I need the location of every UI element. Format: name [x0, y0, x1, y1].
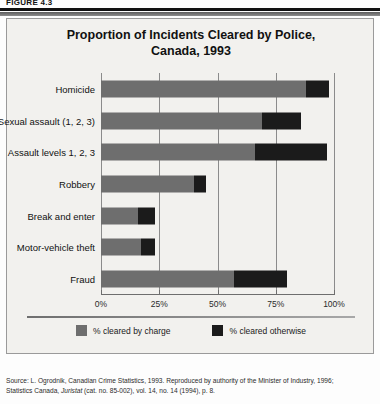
source-line-2-post: (cat. no. 85-002), vol. 14, no. 14 (1994… — [82, 387, 215, 394]
bar-segment — [101, 207, 138, 224]
bar-rows: HomicideSexual assault (1, 2, 3)Assault … — [101, 73, 334, 295]
tick-label: 50% — [209, 299, 226, 309]
source-line-2: Statistics Canada, Juristat (cat. no. 85… — [6, 386, 374, 396]
chart-title: Proportion of Incidents Cleared by Polic… — [7, 27, 375, 59]
source-publication-title: Juristat — [61, 387, 82, 394]
figure-container: FIGURE 4.3 Proportion of Incidents Clear… — [0, 0, 380, 404]
stacked-bar — [101, 207, 155, 224]
tick-mark — [159, 290, 160, 295]
category-label: Motor-vehicle theft — [17, 242, 95, 253]
source-note: Source: L. Ogrodnik, Canadian Crime Stat… — [6, 376, 374, 395]
bar-segment — [262, 112, 302, 129]
legend-label: % cleared by charge — [93, 326, 171, 336]
stacked-bar — [101, 80, 329, 97]
bar-row: Robbery — [101, 168, 334, 200]
bar-segment — [194, 175, 206, 192]
tick-mark — [101, 290, 102, 295]
tick-mark — [218, 290, 219, 295]
stacked-bar — [101, 112, 301, 129]
category-label: Break and enter — [27, 210, 95, 221]
bar-segment — [138, 207, 154, 224]
plot-area: HomicideSexual assault (1, 2, 3)Assault … — [101, 73, 334, 295]
gridline-100pct — [334, 73, 335, 295]
category-label: Fraud — [70, 274, 95, 285]
stacked-bar — [101, 271, 287, 288]
bar-segment — [234, 271, 288, 288]
chart-title-line2: Canada, 1993 — [7, 43, 375, 59]
bar-row: Homicide — [101, 73, 334, 105]
category-label: Robbery — [59, 178, 95, 189]
category-label: Assault levels 1, 2, 3 — [8, 147, 95, 158]
bar-segment — [306, 80, 329, 97]
bar-row: Sexual assault (1, 2, 3) — [101, 105, 334, 137]
tick-label: 0% — [95, 299, 107, 309]
tick-label: 75% — [267, 299, 284, 309]
tick-label: 25% — [151, 299, 168, 309]
category-label: Homicide — [55, 83, 95, 94]
category-label: Sexual assault (1, 2, 3) — [0, 115, 95, 126]
stacked-bar — [101, 175, 206, 192]
figure-label: FIGURE 4.3 — [6, 0, 53, 7]
chart-panel: Proportion of Incidents Cleared by Polic… — [6, 18, 374, 354]
legend-swatch-charge — [76, 325, 87, 336]
bar-segment — [101, 80, 306, 97]
chart-legend: % cleared by charge% cleared otherwise — [7, 325, 375, 336]
header-rule-dark — [0, 8, 380, 11]
chart-title-line1: Proportion of Incidents Cleared by Polic… — [67, 28, 316, 42]
source-line-1: Source: L. Ogrodnik, Canadian Crime Stat… — [6, 376, 374, 386]
header-rule-gray — [0, 12, 380, 16]
bar-segment — [141, 239, 155, 256]
bar-segment — [255, 144, 327, 161]
stacked-bar — [101, 144, 327, 161]
x-axis-ticks: 0%25%50%75%100% — [101, 295, 334, 313]
source-line-2-pre: Statistics Canada, — [6, 387, 61, 394]
tick-mark — [334, 290, 335, 295]
bar-segment — [101, 271, 234, 288]
bar-segment — [101, 112, 262, 129]
legend-item-other: % cleared otherwise — [212, 325, 306, 336]
legend-item-charge: % cleared by charge — [76, 325, 171, 336]
stacked-bar — [101, 239, 155, 256]
legend-swatch-other — [212, 325, 223, 336]
tick-mark — [276, 290, 277, 295]
bar-row: Motor-vehicle theft — [101, 232, 334, 264]
legend-separator — [27, 316, 355, 318]
bar-segment — [101, 175, 194, 192]
legend-label: % cleared otherwise — [229, 326, 306, 336]
bar-row: Assault levels 1, 2, 3 — [101, 136, 334, 168]
bar-segment — [101, 239, 141, 256]
tick-label: 100% — [323, 299, 345, 309]
bar-segment — [101, 144, 255, 161]
bar-row: Break and enter — [101, 200, 334, 232]
